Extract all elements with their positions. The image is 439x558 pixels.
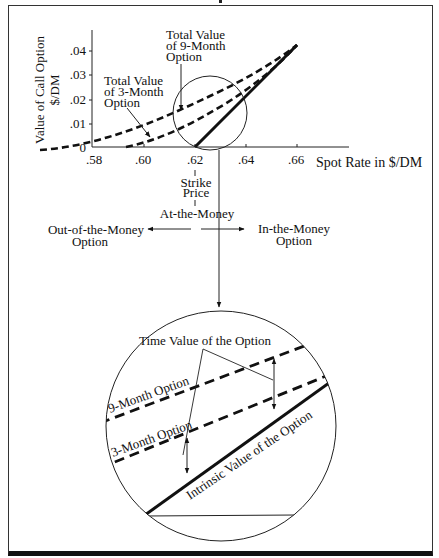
x-tick-label: .60 (135, 152, 151, 167)
svg-text:Option: Option (104, 95, 141, 110)
strike-label-2: Price (183, 185, 210, 200)
intrinsic-value-label: Intrinsic Value of the Option (183, 407, 315, 503)
option-value-diagram: .04 .03 .02 .01 0 Value of Call Option $… (0, 0, 439, 558)
figure-canvas: .04 .03 .02 .01 0 Value of Call Option $… (0, 0, 439, 558)
magnified-baseline (145, 515, 296, 516)
at-the-money-label: At-the-Money (160, 206, 235, 221)
x-axis-label: Spot Rate in $/DM (316, 155, 423, 170)
y-tick-label: .01 (70, 116, 86, 131)
x-tick-label: .62 (187, 152, 203, 167)
magnified-intrinsic-line (145, 378, 336, 515)
y-axis-label-line1: Value of Call Option (32, 36, 47, 144)
in-money-label-2: Option (276, 233, 313, 248)
svg-text:Option: Option (166, 49, 203, 64)
y-tick-label: .04 (70, 43, 87, 58)
time-value-label: Time Value of the Option (139, 333, 272, 348)
y-tick-label: .02 (70, 92, 86, 107)
y-tick-label: .03 (70, 67, 86, 82)
magnified-view: Time Value of the Option 9-Month Option … (100, 311, 336, 541)
y-axis: .04 .03 .02 .01 0 Value of Call Option $… (32, 30, 92, 155)
y-axis-label-line2: $/DM (47, 74, 62, 106)
strike-annotation: Strike Price At-the-Money Out-of-the-Mon… (48, 170, 331, 249)
annotation-nine-month: Total Value of 9-Month Option (166, 27, 226, 110)
out-of-money-label-2: Option (72, 234, 109, 249)
x-axis: .58 .60 .62 .64 .66 Spot Rate in $/DM (86, 144, 423, 170)
x-tick-label: .66 (288, 152, 305, 167)
annotation-three-month: Total Value of 3-Month Option (104, 73, 164, 137)
x-tick-label: .64 (238, 152, 255, 167)
x-tick-label: .58 (86, 152, 102, 167)
three-month-label: 3-Month Option (109, 417, 194, 460)
